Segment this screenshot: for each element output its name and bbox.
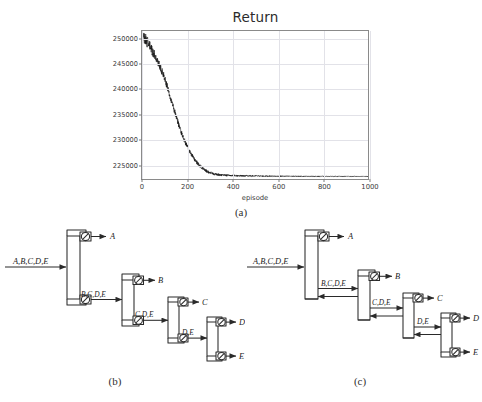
y-tick-mark bbox=[139, 140, 142, 141]
gridline-horizontal bbox=[142, 89, 368, 90]
x-tick-label: 800 bbox=[318, 183, 331, 191]
x-tick-mark bbox=[142, 179, 143, 182]
gridline-horizontal bbox=[142, 39, 368, 40]
column-1-shell bbox=[67, 236, 80, 299]
gridline-vertical bbox=[324, 31, 325, 179]
x-tick-label: 600 bbox=[272, 183, 285, 191]
gridline-vertical bbox=[233, 31, 234, 179]
column-1-shell-c bbox=[305, 236, 318, 299]
product-b-label-c: B bbox=[395, 272, 400, 281]
column-3-shell bbox=[168, 302, 179, 338]
column-3-shell-c bbox=[403, 298, 414, 338]
x-tick-label: 1000 bbox=[361, 183, 378, 191]
product-c-label-c: C bbox=[437, 294, 443, 303]
product-a-label-c: A bbox=[347, 232, 354, 241]
x-tick-label: 400 bbox=[227, 183, 240, 191]
y-tick-mark bbox=[139, 165, 142, 166]
gridline-horizontal bbox=[142, 64, 368, 65]
flowsheet-c-svg: A,B,C,D,E A B C D E B,C,D,E C,D,E D,E bbox=[245, 222, 482, 377]
gridline-vertical bbox=[370, 31, 371, 179]
y-tick-mark bbox=[139, 64, 142, 65]
chart-title: Return bbox=[141, 9, 370, 25]
flowsheet-c-panel: A,B,C,D,E A B C D E B,C,D,E C,D,E D,E bbox=[245, 222, 482, 377]
x-tick-mark bbox=[324, 179, 325, 182]
column-2-shell bbox=[122, 280, 134, 320]
stream-bcde-label-c: B,C,D,E bbox=[321, 279, 346, 288]
caption-c: (c) bbox=[330, 375, 390, 387]
product-e-label-c: E bbox=[472, 348, 478, 357]
feed-label-c: A,B,C,D,E bbox=[252, 257, 288, 266]
y-tick-label: 230000 bbox=[113, 136, 138, 144]
x-tick-label: 0 bbox=[140, 183, 144, 191]
x-tick-mark bbox=[187, 179, 188, 182]
return-curve-path bbox=[142, 31, 368, 177]
y-tick-mark bbox=[139, 38, 142, 39]
y-tick-label: 240000 bbox=[113, 85, 138, 93]
stream-cde-label-b: C,D,E bbox=[135, 310, 154, 319]
column-4-shell-c bbox=[441, 318, 452, 352]
stream-cde-label-c: C,D,E bbox=[372, 298, 391, 307]
x-tick-mark bbox=[370, 179, 371, 182]
y-tick-label: 245000 bbox=[113, 60, 138, 68]
flowsheet-b-panel: A,B,C,D,E A B C D E B,C,D,E C,D,E D,E bbox=[0, 222, 245, 377]
plot-area: 225000230000235000240000245000250000 020… bbox=[141, 30, 369, 180]
gridline-horizontal bbox=[142, 115, 368, 116]
gridline-vertical bbox=[188, 31, 189, 179]
y-tick-mark bbox=[139, 114, 142, 115]
stream-de-label-c: D,E bbox=[416, 317, 429, 326]
column-2-shell-c bbox=[358, 276, 370, 320]
product-b-label-b: B bbox=[158, 276, 163, 285]
y-tick-label: 235000 bbox=[113, 111, 138, 119]
caption-b: (b) bbox=[85, 375, 145, 387]
feed-label-b: A,B,C,D,E bbox=[12, 257, 48, 266]
y-tick-mark bbox=[139, 89, 142, 90]
y-tick-label: 225000 bbox=[113, 162, 138, 170]
gridline-vertical bbox=[279, 31, 280, 179]
x-tick-mark bbox=[278, 179, 279, 182]
figure-root: Return 225000230000235000240000245000250… bbox=[0, 0, 482, 402]
product-c-label-b: C bbox=[202, 298, 208, 307]
gridline-horizontal bbox=[142, 166, 368, 167]
product-e-label-b: E bbox=[238, 352, 244, 361]
column-4-shell bbox=[207, 322, 218, 356]
stream-bcde-label-b: B,C,D,E bbox=[81, 290, 106, 299]
x-tick-label: 200 bbox=[181, 183, 194, 191]
product-d-label-c: D bbox=[472, 314, 479, 323]
x-axis-label: episode bbox=[141, 194, 369, 202]
flowsheet-b-svg: A,B,C,D,E A B C D E B,C,D,E C,D,E D,E bbox=[0, 222, 245, 377]
chart-panel: Return 225000230000235000240000245000250… bbox=[0, 0, 482, 215]
y-tick-label: 250000 bbox=[113, 35, 138, 43]
caption-a: (a) bbox=[206, 206, 276, 218]
product-a-label-b: A bbox=[109, 232, 116, 241]
gridline-horizontal bbox=[142, 140, 368, 141]
x-tick-mark bbox=[233, 179, 234, 182]
stream-de-label-b: D,E bbox=[181, 328, 194, 337]
product-d-label-b: D bbox=[238, 318, 245, 327]
return-line-series bbox=[142, 31, 368, 179]
gridline-vertical bbox=[142, 31, 143, 179]
